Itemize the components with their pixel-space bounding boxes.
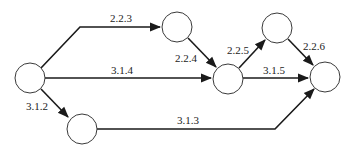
label-2-2-3: 2.2.3 xyxy=(110,12,133,24)
label-2-2-5: 2.2.5 xyxy=(227,44,250,56)
label-3-1-2: 3.1.2 xyxy=(26,100,48,112)
label-3-1-5: 3.1.5 xyxy=(263,64,286,76)
network-diagram: 2.2.3 3.1.4 3.1.2 2.2.4 2.2.5 3.1.5 2.2.… xyxy=(0,0,352,151)
label-2-2-4: 2.2.4 xyxy=(175,52,198,64)
edge-2-2-3 xyxy=(41,27,160,68)
diagram-svg: 2.2.3 3.1.4 3.1.2 2.2.4 2.2.5 3.1.5 2.2.… xyxy=(0,0,352,151)
label-3-1-4: 3.1.4 xyxy=(111,64,134,76)
node-2 xyxy=(162,12,192,42)
node-1 xyxy=(15,63,45,93)
node-3 xyxy=(213,64,243,94)
edge-3-1-3 xyxy=(97,89,314,129)
node-5 xyxy=(310,62,340,92)
node-4 xyxy=(262,13,292,43)
node-6 xyxy=(67,114,97,144)
label-2-2-6: 2.2.6 xyxy=(303,40,326,52)
label-3-1-3: 3.1.3 xyxy=(177,114,200,126)
